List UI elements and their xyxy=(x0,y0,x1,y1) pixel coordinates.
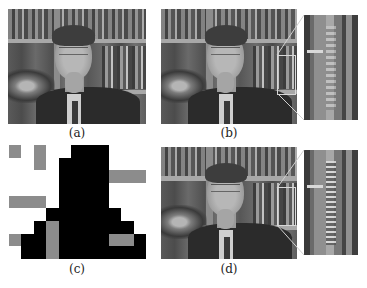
block-cell-r0-c1 xyxy=(21,145,33,158)
block-cell-r0-c2 xyxy=(34,145,46,158)
block-cell-r5-c5 xyxy=(71,208,83,221)
block-cell-r3-c3 xyxy=(46,183,58,196)
caption-b: (b) xyxy=(199,126,259,140)
block-cell-r2-c7 xyxy=(96,170,108,183)
block-cell-r3-c8 xyxy=(109,183,121,196)
block-cell-r6-c9 xyxy=(121,221,133,234)
block-cell-r6-c6 xyxy=(84,221,96,234)
block-cell-r3-c0 xyxy=(9,183,21,196)
block-cell-r8-c10 xyxy=(134,246,146,259)
block-cell-r4-c8 xyxy=(109,196,121,209)
block-cell-r5-c1 xyxy=(21,208,33,221)
block-cell-r1-c4 xyxy=(59,158,71,171)
block-cell-r0-c6 xyxy=(84,145,96,158)
block-cell-r7-c7 xyxy=(96,234,108,247)
block-cell-r4-c7 xyxy=(96,196,108,209)
panel-a-image xyxy=(8,9,146,124)
block-cell-r6-c8 xyxy=(109,221,121,234)
block-cell-r5-c4 xyxy=(59,208,71,221)
block-cell-r8-c4 xyxy=(59,246,71,259)
block-cell-r1-c9 xyxy=(121,158,133,171)
block-cell-r7-c0 xyxy=(9,234,21,247)
block-cell-r8-c8 xyxy=(109,246,121,259)
caption-c: (c) xyxy=(47,262,107,276)
block-cell-r6-c2 xyxy=(34,221,46,234)
block-cell-r4-c5 xyxy=(71,196,83,209)
block-cell-r3-c1 xyxy=(21,183,33,196)
block-cell-r7-c6 xyxy=(84,234,96,247)
block-cell-r7-c3 xyxy=(46,234,58,247)
zoom-region-box xyxy=(277,55,297,95)
photo-scene xyxy=(161,147,297,259)
block-cell-r8-c7 xyxy=(96,246,108,259)
block-cell-r8-c5 xyxy=(71,246,83,259)
block-cell-r8-c3 xyxy=(46,246,58,259)
block-cell-r5-c9 xyxy=(121,208,133,221)
photo-scene xyxy=(8,9,146,124)
block-cell-r3-c6 xyxy=(84,183,96,196)
block-cell-r3-c10 xyxy=(134,183,146,196)
block-cell-r2-c10 xyxy=(134,170,146,183)
block-cell-r1-c2 xyxy=(34,158,46,171)
block-cell-r6-c10 xyxy=(134,221,146,234)
block-cell-r5-c7 xyxy=(96,208,108,221)
block-cell-r6-c7 xyxy=(96,221,108,234)
caption-d: (d) xyxy=(199,262,259,276)
block-cell-r8-c2 xyxy=(34,246,46,259)
panel-c-block-map xyxy=(9,145,146,259)
zoom-region-box xyxy=(277,187,297,226)
block-cell-r7-c10 xyxy=(134,234,146,247)
block-cell-r1-c1 xyxy=(21,158,33,171)
block-cell-r4-c0 xyxy=(9,196,21,209)
block-cell-r0-c3 xyxy=(46,145,58,158)
block-cell-r3-c9 xyxy=(121,183,133,196)
block-cell-r6-c3 xyxy=(46,221,58,234)
block-cell-r3-c2 xyxy=(34,183,46,196)
block-cell-r4-c6 xyxy=(84,196,96,209)
block-cell-r5-c2 xyxy=(34,208,46,221)
block-cell-r7-c8 xyxy=(109,234,121,247)
block-cell-r7-c5 xyxy=(71,234,83,247)
block-cell-r0-c4 xyxy=(59,145,71,158)
panel-d-image xyxy=(161,147,297,259)
block-cell-r1-c5 xyxy=(71,158,83,171)
block-cell-r4-c4 xyxy=(59,196,71,209)
block-cell-r8-c9 xyxy=(121,246,133,259)
block-cell-r0-c5 xyxy=(71,145,83,158)
block-cell-r2-c3 xyxy=(46,170,58,183)
suit xyxy=(36,87,141,124)
block-cell-r0-c8 xyxy=(109,145,121,158)
photo-scene xyxy=(161,9,297,124)
block-cell-r2-c5 xyxy=(71,170,83,183)
block-cell-r6-c4 xyxy=(59,221,71,234)
panel-b-image xyxy=(161,9,297,124)
block-cell-r2-c1 xyxy=(21,170,33,183)
block-cell-r0-c7 xyxy=(96,145,108,158)
block-cell-r1-c0 xyxy=(9,158,21,171)
block-cell-r1-c3 xyxy=(46,158,58,171)
block-cell-r1-c6 xyxy=(84,158,96,171)
block-cell-r8-c6 xyxy=(84,246,96,259)
block-cell-r0-c9 xyxy=(121,145,133,158)
block-cell-r6-c0 xyxy=(9,221,21,234)
block-cell-r4-c1 xyxy=(21,196,33,209)
block-cell-r4-c9 xyxy=(121,196,133,209)
block-cell-r6-c5 xyxy=(71,221,83,234)
block-cell-r1-c8 xyxy=(109,158,121,171)
block-cell-r5-c6 xyxy=(84,208,96,221)
block-cell-r5-c8 xyxy=(109,208,121,221)
block-cell-r7-c2 xyxy=(34,234,46,247)
block-cell-r7-c1 xyxy=(21,234,33,247)
block-cell-r3-c5 xyxy=(71,183,83,196)
block-cell-r1-c10 xyxy=(134,158,146,171)
block-cell-r6-c1 xyxy=(21,221,33,234)
caption-a: (a) xyxy=(47,126,107,140)
block-cell-r2-c6 xyxy=(84,170,96,183)
panel-b-inset xyxy=(304,15,358,120)
block-cell-r3-c7 xyxy=(96,183,108,196)
block-cell-r2-c8 xyxy=(109,170,121,183)
block-cell-r2-c0 xyxy=(9,170,21,183)
panel-d-inset xyxy=(304,150,358,255)
block-cell-r2-c9 xyxy=(121,170,133,183)
suit xyxy=(188,223,291,259)
